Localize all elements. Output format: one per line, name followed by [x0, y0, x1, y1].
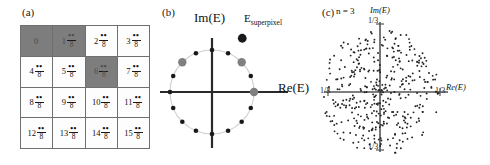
phase-fraction: ••8	[101, 126, 110, 141]
scatter-dot	[419, 55, 421, 57]
scatter-dot	[382, 125, 384, 127]
scatter-dot	[425, 60, 427, 62]
scatter-dot	[337, 103, 339, 105]
scatter-dot	[358, 141, 360, 143]
scatter-dot	[340, 45, 342, 47]
fraction-denominator: 8	[40, 134, 44, 141]
scatter-dot	[383, 108, 385, 110]
superpixel-cell-13: 13••8	[53, 118, 84, 148]
scatter-dot	[337, 133, 339, 135]
scatter-dot	[356, 58, 358, 60]
scatter-dot	[404, 116, 406, 118]
scatter-dot	[371, 104, 373, 106]
highlighted-root-dot	[250, 88, 258, 96]
scatter-dot	[376, 121, 378, 123]
scatter-dot	[382, 100, 384, 102]
scatter-dot	[364, 91, 366, 93]
panel-b: (b) Im(E) Re(E) Esuperpixel	[160, 0, 325, 165]
scatter-dot	[379, 145, 381, 147]
superpixel-cell-3: 3••8	[118, 26, 149, 56]
scatter-dot	[334, 130, 336, 132]
phase-fraction: ••8	[99, 33, 108, 48]
scatter-dot	[430, 87, 432, 89]
scatter-dot	[361, 67, 363, 69]
scatter-dot	[387, 98, 389, 100]
scatter-dot	[363, 100, 365, 102]
scatter-dot	[360, 49, 362, 51]
cell-index-label: 1	[62, 37, 66, 46]
scatter-dot	[409, 76, 411, 78]
scatter-dot	[411, 136, 413, 138]
scatter-dot	[335, 105, 337, 107]
scatter-dot	[413, 48, 415, 50]
fraction-denominator: 8	[102, 72, 106, 79]
scatter-dot	[390, 70, 392, 72]
scatter-dot	[364, 77, 366, 79]
scatter-dot	[375, 82, 377, 84]
scatter-dot	[393, 56, 395, 58]
scatter-dot	[423, 79, 425, 81]
scatter-dot	[371, 33, 373, 35]
scatter-dot	[420, 95, 422, 97]
cell-index-label: 8	[30, 98, 34, 107]
scatter-dot	[343, 77, 345, 79]
scatter-dot	[404, 132, 406, 134]
scatter-dot	[357, 114, 359, 116]
scatter-dot	[407, 123, 409, 125]
scatter-dot	[333, 115, 335, 117]
scatter-dot	[373, 56, 375, 58]
scatter-dot	[366, 114, 368, 116]
scatter-dot	[392, 137, 394, 139]
scatter-dot	[394, 38, 396, 40]
scatter-dot	[395, 152, 397, 154]
scatter-dot	[400, 97, 402, 99]
scatter-dot	[340, 59, 342, 61]
scatter-dot	[364, 39, 366, 41]
scatter-dot	[418, 107, 420, 109]
phase-fraction: ••8	[67, 95, 76, 110]
root-dot	[210, 132, 215, 137]
scatter-dot	[355, 106, 357, 108]
scatter-dot	[398, 57, 400, 59]
scatter-dot	[378, 113, 380, 115]
scatter-dot	[416, 105, 418, 107]
scatter-dot	[377, 59, 379, 61]
scatter-dot	[424, 57, 426, 59]
scatter-dot	[345, 99, 347, 101]
scatter-dot	[421, 65, 423, 67]
scatter-dot	[394, 91, 396, 93]
scatter-dot	[407, 138, 409, 140]
root-dot	[210, 48, 215, 53]
scatter-dot	[405, 80, 407, 82]
scatter-dot	[386, 123, 388, 125]
scatter-dot	[393, 71, 395, 73]
scatter-dot	[374, 95, 376, 97]
fraction-denominator: 8	[37, 72, 41, 79]
root-dot	[194, 51, 199, 56]
scatter-dot	[389, 30, 391, 32]
root-dot	[226, 51, 231, 56]
scatter-dot	[400, 34, 402, 36]
scatter-dot	[377, 70, 379, 72]
superpixel-cell-10: 10••8	[86, 88, 117, 118]
scatter-dot	[390, 32, 392, 34]
scatter-dot	[343, 42, 345, 44]
cell-index-label: 3	[126, 37, 130, 46]
scatter-dot	[353, 61, 355, 63]
scatter-dot	[370, 81, 372, 83]
scatter-dot	[422, 52, 424, 54]
cell-index-label: 6	[94, 67, 98, 76]
scatter-dot	[378, 80, 380, 82]
superpixel-cell-0: 0	[21, 26, 52, 56]
scatter-dot	[425, 65, 427, 67]
scatter-dot	[369, 48, 371, 50]
scatter-dot	[349, 132, 351, 134]
scatter-dot	[432, 79, 434, 81]
scatter-dot	[385, 84, 387, 86]
scatter-dot	[353, 51, 355, 53]
scatter-dot	[364, 107, 366, 109]
scatter-dot	[426, 93, 428, 95]
scatter-dot	[349, 76, 351, 78]
phase-fraction: ••8	[132, 33, 141, 48]
scatter-dot	[385, 101, 387, 103]
